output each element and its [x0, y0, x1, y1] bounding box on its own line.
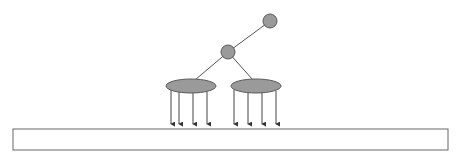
left-group-arrows: [171, 90, 207, 124]
right-group-arrows: [234, 90, 276, 124]
base-bar: [13, 129, 448, 150]
right-group-node: [231, 79, 281, 93]
left-group-node: [166, 79, 216, 93]
tree-diagram: [0, 0, 457, 160]
root-node: [263, 14, 277, 28]
middle-node: [221, 45, 235, 59]
edge-root-to-middle: [228, 21, 270, 52]
